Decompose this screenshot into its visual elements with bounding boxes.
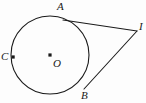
label-point-c: C	[1, 51, 8, 62]
label-point-a: A	[57, 1, 64, 12]
center-point-marker	[48, 53, 51, 56]
tangent-line-b-i	[84, 31, 137, 89]
tangent-line-a-i	[63, 20, 137, 31]
label-point-b: B	[81, 90, 88, 101]
label-point-o: O	[53, 58, 61, 69]
label-point-i: I	[139, 21, 143, 32]
geometry-canvas	[0, 0, 146, 103]
point-c-marker	[12, 55, 15, 58]
geometry-figure: A C O B I	[0, 0, 146, 103]
